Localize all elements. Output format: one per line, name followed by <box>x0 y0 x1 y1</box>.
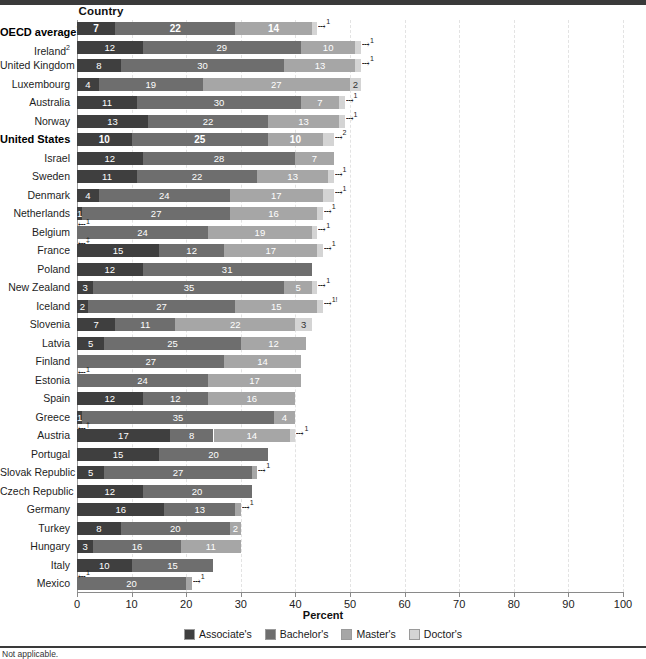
bar-segment-doctor-s <box>312 22 317 35</box>
legend-swatch-icon <box>409 629 420 640</box>
end-footnote-marker: ⤏1 <box>362 55 374 67</box>
bar-segment-master-s: 17 <box>230 189 323 202</box>
chart-row: Greece1354 <box>0 411 646 430</box>
end-footnote-marker: ⤏1 <box>335 166 347 178</box>
legend-item-master-s[interactable]: Master's <box>341 628 395 640</box>
row-label-denmark: Denmark <box>0 189 70 202</box>
bottom-divider <box>0 646 646 648</box>
bar-segment-bachelor-s: 30 <box>121 59 285 72</box>
bar-segment-bachelor-s: 20 <box>159 448 268 461</box>
bar-segment-master-s: 17 <box>224 244 317 257</box>
legend-label: Associate's <box>199 628 252 640</box>
chart-row: Israel12287 <box>0 152 646 171</box>
bar-segment-associate-s: 11 <box>77 96 137 109</box>
bar-segment-doctor-s <box>323 133 334 146</box>
chart-row: OECD average172214⤏1 <box>0 22 646 41</box>
bar-segment-master-s: 5 <box>284 281 311 294</box>
bar-segment-doctor-s <box>317 244 322 257</box>
bar-segment-master-s: 19 <box>208 226 312 239</box>
legend-swatch-icon <box>184 629 195 640</box>
bar-segment-associate-s: 5 <box>77 466 104 479</box>
row-label-norway: Norway <box>0 115 70 128</box>
chart-row: Luxembourg419272 <box>0 78 646 97</box>
bar-segment-bachelor-s: 8 <box>170 429 214 442</box>
bar-segment-master-s: 16 <box>208 392 295 405</box>
chart-row: Slovenia711223 <box>0 318 646 337</box>
x-tick-90 <box>568 592 569 597</box>
bar-segment-associate-s: 4 <box>77 78 99 91</box>
bar-segment-bachelor-s: 29 <box>143 41 301 54</box>
row-label-new-zealand: New Zealand <box>0 281 70 294</box>
chart-row: Finland2714 <box>0 355 646 374</box>
bar-segment-doctor-s: 2 <box>350 78 361 91</box>
bar-segment-associate-s: 7 <box>77 318 115 331</box>
legend-label: Doctor's <box>424 628 462 640</box>
end-footnote-marker: ⤏1 <box>318 277 330 289</box>
chart-row: Ireland2122910⤏1 <box>0 41 646 60</box>
start-footnote-marker: ⤎1 <box>78 569 90 581</box>
bar-segment-doctor-s <box>339 115 344 128</box>
bar-segment-bachelor-s: 12 <box>143 392 209 405</box>
chart-row: Germany1613⤏1 <box>0 503 646 522</box>
row-label-mexico: Mexico <box>0 577 70 590</box>
bar-segment-bachelor-s: 28 <box>143 152 296 165</box>
bar-segment-bachelor-s: 22 <box>115 22 235 35</box>
bar-segment-master-s: 15 <box>235 300 317 313</box>
row-label-slovak-republic: Slovak Republic <box>0 466 70 479</box>
legend-swatch-icon <box>265 629 276 640</box>
bar-segment-bachelor-s: 27 <box>88 300 235 313</box>
bar-segment-associate-s: 13 <box>77 115 148 128</box>
row-label-latvia: Latvia <box>0 337 70 350</box>
end-footnote-marker: ⤏1 <box>324 240 336 252</box>
row-label-sweden: Sweden <box>0 170 70 183</box>
bar-segment-bachelor-s: 24 <box>99 189 230 202</box>
footnote-text: Not applicable. <box>2 649 58 659</box>
row-label-united-states: United States <box>0 133 70 146</box>
bar-segment-bachelor-s: 35 <box>93 281 284 294</box>
end-footnote-marker: ⤏2 <box>335 129 347 141</box>
bar-segment-master-s: 22 <box>175 318 295 331</box>
chart-row: Latvia52512 <box>0 337 646 356</box>
x-tick-0 <box>77 592 78 597</box>
row-label-finland: Finland <box>0 355 70 368</box>
row-label-slovenia: Slovenia <box>0 318 70 331</box>
bar-segment-bachelor-s: 24 <box>77 226 208 239</box>
bar-segment-doctor-s <box>328 170 333 183</box>
x-tick-80 <box>514 592 515 597</box>
bar-segment-bachelor-s: 25 <box>132 133 269 146</box>
start-footnote-marker: ⤎1 <box>78 366 90 378</box>
row-label-united-kingdom: United Kingdom <box>0 59 70 72</box>
bar-segment-doctor-s: 3 <box>295 318 311 331</box>
row-label-italy: Italy <box>0 559 70 572</box>
legend-item-bachelor-s[interactable]: Bachelor's <box>265 628 329 640</box>
bar-segment-doctor-s <box>317 207 322 220</box>
bar-segment-doctor-s <box>339 96 344 109</box>
end-footnote-marker: ⤏1 <box>258 462 270 474</box>
bar-segment-master-s: 11 <box>181 540 241 553</box>
end-footnote-marker: ⤏1 <box>324 203 336 215</box>
legend-item-associate-s[interactable]: Associate's <box>184 628 252 640</box>
bar-segment-bachelor-s: 31 <box>143 263 312 276</box>
chart-plot-area: OECD average172214⤏1Ireland2122910⤏1Unit… <box>0 20 646 595</box>
end-footnote-marker: ⤏1 <box>296 425 308 437</box>
bar-segment-master-s <box>235 503 240 516</box>
bar-segment-bachelor-s: 20 <box>143 485 252 498</box>
x-tick-30 <box>241 592 242 597</box>
bar-segment-doctor-s <box>355 59 360 72</box>
bar-segment-bachelor-s: 12 <box>159 244 225 257</box>
chart-row: United States102510⤏2 <box>0 133 646 152</box>
end-footnote-marker: ⤏1 <box>318 18 330 30</box>
bar-segment-associate-s: 8 <box>77 59 121 72</box>
legend-item-doctor-s[interactable]: Doctor's <box>409 628 462 640</box>
bar-segment-associate-s: 12 <box>77 392 143 405</box>
bar-segment-associate-s: 15 <box>77 448 159 461</box>
end-footnote-marker: ⤏1 <box>346 111 358 123</box>
bar-segment-doctor-s <box>323 189 334 202</box>
row-label-oecd-average: OECD average1 <box>0 22 70 39</box>
bar-segment-associate-s: 12 <box>77 152 143 165</box>
x-tick-60 <box>405 592 406 597</box>
start-footnote-marker: ⤎1 <box>78 218 90 230</box>
row-label-luxembourg: Luxembourg <box>0 78 70 91</box>
bar-segment-master-s: 14 <box>224 355 300 368</box>
bar-segment-doctor-s <box>312 281 317 294</box>
